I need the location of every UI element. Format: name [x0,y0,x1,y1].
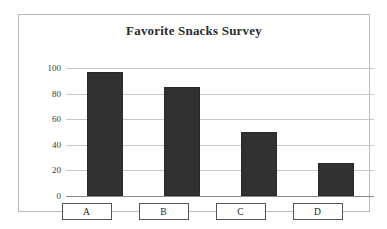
bar [241,132,277,196]
y-axis-tick-label: 60 [52,114,61,124]
category-label-c: C [216,203,266,220]
category-label-b: B [139,203,189,220]
y-axis-tick-label: 0 [57,191,62,201]
y-axis-line [66,68,67,196]
gridline: 0 [66,196,374,197]
y-axis-tick-label: 100 [48,63,62,73]
plot-area: 020406080100 [66,68,374,196]
bar [164,87,200,196]
bar [318,163,354,196]
chart-title: Favorite Snacks Survey [19,23,369,39]
gridline: 100 [66,68,374,69]
category-label-a: A [62,203,112,220]
chart-frame: Favorite Snacks Survey 020406080100 ABCD [18,14,370,212]
y-axis-tick-label: 20 [52,165,61,175]
y-axis-tick-label: 80 [52,89,61,99]
bar [87,72,123,196]
y-axis-tick-label: 40 [52,140,61,150]
category-label-d: D [293,203,343,220]
